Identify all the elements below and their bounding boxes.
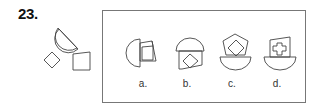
option-a[interactable] <box>128 37 168 77</box>
option-d-label: d. <box>267 78 287 89</box>
half-circle-icon <box>55 28 77 50</box>
given-shapes-icon <box>40 20 100 80</box>
option-c-label: c. <box>222 78 242 89</box>
option-b-label: b. <box>177 78 197 89</box>
question-number: 23. <box>18 5 38 22</box>
option-c-figure-icon <box>217 33 257 73</box>
trapezoid-icon <box>73 52 90 70</box>
option-a-figure-icon <box>128 37 168 77</box>
option-a-label: a. <box>133 78 153 89</box>
option-b[interactable] <box>172 37 212 77</box>
option-b-figure-icon <box>172 37 212 77</box>
given-pieces <box>40 20 100 80</box>
option-d[interactable] <box>262 35 302 75</box>
diamond-icon <box>44 52 60 68</box>
option-c[interactable] <box>217 33 257 73</box>
option-d-figure-icon <box>262 35 302 75</box>
